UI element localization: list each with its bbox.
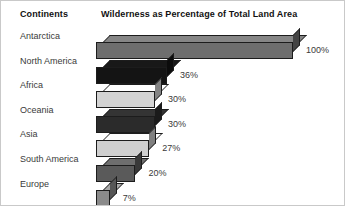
- category-column-header: Continents: [20, 9, 68, 19]
- value-label-asia: 27%: [162, 143, 180, 153]
- value-label-north-america: 36%: [180, 70, 198, 80]
- bar-asia: [96, 133, 156, 157]
- value-label-oceania: 30%: [168, 119, 186, 129]
- wilderness-bar-chart: Continents Wilderness as Percentage of T…: [0, 0, 345, 206]
- bar-side-face: [293, 28, 300, 52]
- bar-front-face: [96, 91, 155, 108]
- bar-front-face: [96, 116, 155, 133]
- value-label-africa: 30%: [168, 94, 186, 104]
- bar-south-america: [96, 158, 142, 182]
- value-label-south-america: 20%: [148, 168, 166, 178]
- bar-front-face: [96, 42, 293, 59]
- category-label-africa: Africa: [20, 80, 43, 90]
- bar-side-face: [135, 151, 142, 175]
- bar-top-face: [103, 35, 307, 42]
- bar-north-america: [96, 60, 174, 84]
- value-label-europe: 7%: [123, 193, 136, 203]
- chart-title: Wilderness as Percentage of Total Land A…: [101, 9, 297, 19]
- category-label-asia: Asia: [20, 129, 38, 139]
- category-label-europe: Europe: [20, 179, 49, 189]
- category-label-north-america: North America: [20, 56, 77, 66]
- category-label-south-america: South America: [20, 154, 79, 164]
- bar-top-face: [103, 158, 149, 165]
- category-label-antarctica: Antarctica: [20, 31, 60, 41]
- bar-africa: [96, 84, 162, 108]
- value-label-antarctica: 100%: [306, 45, 329, 55]
- bar-europe: [96, 183, 117, 206]
- category-label-oceania: Oceania: [20, 105, 54, 115]
- bar-front-face: [96, 190, 110, 206]
- bar-antarctica: [96, 35, 300, 59]
- bar-side-face: [149, 126, 156, 150]
